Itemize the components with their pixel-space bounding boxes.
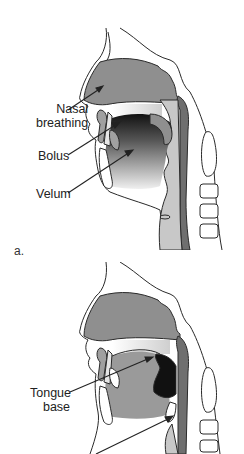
label-bolus: Bolus xyxy=(38,149,69,163)
sagittal-head-diagram-b xyxy=(0,262,244,454)
panel-a: Nasal breathing Bolus Velum a. xyxy=(0,0,244,250)
label-tongue-base: Tongue base xyxy=(30,386,71,414)
label-nasal-breathing: Nasal breathing xyxy=(36,102,88,130)
label-line: Tongue xyxy=(30,386,71,400)
label-line: Nasal xyxy=(36,102,88,116)
label-line: base xyxy=(30,400,71,414)
panel-b: Tongue base xyxy=(0,262,244,454)
panel-letter-a: a. xyxy=(14,244,24,258)
label-velum: Velum xyxy=(36,187,71,201)
label-line: breathing xyxy=(36,116,88,130)
